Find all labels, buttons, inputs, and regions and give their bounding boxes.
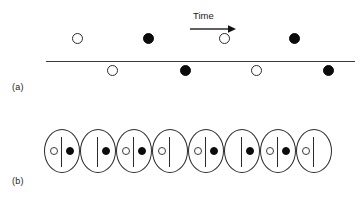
capsule-3-right-filled-circle: [138, 147, 146, 155]
event-above-open-circle-1: [72, 33, 83, 44]
capsule-1-left-open-circle: [50, 147, 58, 155]
capsule-8: [296, 129, 332, 173]
panel-b: (b): [0, 104, 362, 203]
figure-root: Time (a) (b): [0, 0, 362, 203]
capsule-3-left-open-circle: [122, 147, 130, 155]
capsule-7-right-filled-circle: [282, 147, 290, 155]
panel-b-label: (b): [12, 176, 24, 186]
capsule-1-divider: [61, 137, 62, 167]
event-below-filled-circle-2: [180, 65, 191, 76]
event-below-open-circle-1: [107, 65, 118, 76]
capsule-3-divider: [133, 137, 134, 167]
capsule-8-divider: [313, 137, 314, 167]
capsule-4-left-open-circle: [158, 147, 166, 155]
capsule-7-left-open-circle: [266, 147, 274, 155]
capsule-7-divider: [277, 137, 278, 167]
capsule-6: [224, 129, 260, 173]
capsule-1-right-filled-circle: [66, 147, 74, 155]
time-arrow-right-icon: [190, 23, 236, 35]
capsule-6-divider: [241, 137, 242, 167]
capsule-5-divider: [205, 137, 206, 167]
capsule-2-right-filled-circle: [102, 147, 110, 155]
capsule-5: [188, 129, 224, 173]
capsule-3: [116, 129, 152, 173]
capsule-2: [80, 129, 116, 173]
event-above-open-circle-3: [219, 33, 230, 44]
time-axis-label: Time: [193, 10, 214, 21]
event-above-filled-circle-2: [143, 33, 154, 44]
capsule-5-left-open-circle: [194, 147, 202, 155]
timeline-axis: [46, 61, 355, 62]
capsule-6-right-filled-circle: [246, 147, 254, 155]
capsule-1: [44, 129, 80, 173]
event-above-filled-circle-4: [289, 33, 300, 44]
capsule-5-right-filled-circle: [210, 147, 218, 155]
capsule-4: [152, 129, 188, 173]
capsule-7: [260, 129, 296, 173]
panel-a: Time (a): [0, 0, 362, 104]
event-below-filled-circle-4: [323, 65, 334, 76]
capsule-4-divider: [169, 137, 170, 167]
capsule-2-divider: [97, 137, 98, 167]
panel-a-label: (a): [12, 82, 24, 92]
capsule-8-left-open-circle: [302, 147, 310, 155]
event-below-open-circle-3: [251, 65, 262, 76]
